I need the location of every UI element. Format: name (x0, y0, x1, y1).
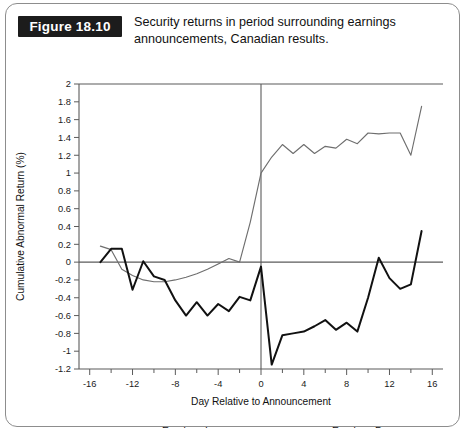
x-tick-label: -4 (214, 379, 222, 389)
figure-card: Figure 18.10 Security returns in period … (5, 3, 460, 427)
x-axis: -16-12-8-40481216 (79, 369, 443, 389)
figure-caption-line-1: Security returns in period surrounding e… (134, 15, 396, 29)
x-axis-title: Day Relative to Announcement (191, 396, 331, 407)
y-axis-title: Cumulative Abnormal Return (%) (15, 152, 26, 301)
x-tick-label: 0 (258, 379, 263, 389)
legend-label-earnings-decreases: Earnings Decreases (332, 426, 424, 428)
figure-number-badge: Figure 18.10 (18, 16, 122, 37)
x-tick-label: 16 (427, 379, 437, 389)
y-tick-label: -1.2 (55, 364, 71, 374)
y-tick-label: 1.2 (58, 151, 71, 161)
legend-label-earnings-increases: Earnings Increases (162, 426, 249, 428)
x-tick-label: -8 (171, 379, 179, 389)
reference-lines (79, 84, 443, 369)
x-tick-label: -16 (83, 379, 96, 389)
y-tick-label: -0.4 (55, 293, 71, 303)
y-tick-label: -0.2 (55, 275, 71, 285)
x-tick-label: 12 (384, 379, 394, 389)
figure-caption-line-2: announcements, Canadian results. (134, 32, 329, 46)
y-tick-label: 1.8 (58, 97, 71, 107)
figure-caption: Security returns in period surrounding e… (134, 14, 443, 47)
line-chart: -1.2-1-0.8-0.6-0.4-0.200.20.40.60.811.21… (6, 60, 461, 428)
y-tick-label: 0.4 (58, 222, 71, 232)
y-tick-label: 1.6 (58, 115, 71, 125)
y-tick-label: -0.6 (55, 311, 71, 321)
x-tick-label: 8 (344, 379, 349, 389)
y-tick-label: 2 (66, 79, 71, 89)
y-tick-label: -1 (63, 346, 71, 356)
y-tick-label: 0.2 (58, 240, 71, 250)
y-tick-label: 1 (66, 168, 71, 178)
x-tick-label: 4 (301, 379, 306, 389)
y-tick-label: -0.8 (55, 329, 71, 339)
y-tick-label: 1.4 (58, 133, 71, 143)
y-tick-label: 0.6 (58, 204, 71, 214)
chart-legend: Earnings IncreasesEarnings Decreases (126, 426, 424, 428)
y-tick-label: 0 (66, 257, 71, 267)
figure-header: Figure 18.10 Security returns in period … (18, 14, 447, 60)
x-tick-label: -12 (126, 379, 139, 389)
y-tick-label: 0.8 (58, 186, 71, 196)
chart-plot-area: -1.2-1-0.8-0.6-0.4-0.200.20.40.60.811.21… (6, 60, 461, 428)
